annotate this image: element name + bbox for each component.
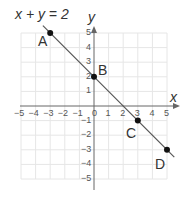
y-tick-label: −3 [81, 145, 91, 154]
point-label-a: A [38, 34, 47, 48]
y-tick-label: −1 [81, 116, 91, 125]
point-a [47, 30, 53, 36]
y-tick-label: 2 [86, 72, 91, 81]
x-tick-label: 4 [149, 109, 154, 118]
x-tick-label: 1 [106, 109, 111, 118]
x-tick-label: −5 [14, 109, 24, 118]
y-tick-label: −2 [81, 130, 91, 139]
x-tick-label: −4 [29, 109, 39, 118]
y-tick-label: 5 [86, 28, 91, 37]
x-tick-label: −2 [58, 109, 68, 118]
point-b [91, 74, 97, 80]
x-tick-label: 2 [120, 109, 125, 118]
y-tick-label: 4 [86, 43, 91, 52]
point-c [135, 118, 141, 124]
point-label-c: C [126, 126, 136, 140]
y-tick-label: −4 [81, 159, 91, 168]
y-tick-label: −5 [81, 174, 91, 183]
x-tick-label: 3 [135, 109, 140, 118]
x-tick-label: −3 [43, 109, 53, 118]
y-axis-arrow-icon [91, 26, 97, 33]
point-label-d: D [155, 157, 165, 171]
y-tick-label: 1 [86, 86, 91, 95]
x-tick-label: 5 [164, 109, 169, 118]
equation-label: x + y = 2 [15, 7, 69, 21]
x-tick-label: 0 [92, 109, 97, 118]
y-tick-label: 3 [86, 57, 91, 66]
x-axis-label: x [170, 90, 177, 104]
point-d [164, 147, 170, 153]
y-axis-label: y [88, 10, 95, 24]
point-label-b: B [98, 63, 107, 77]
